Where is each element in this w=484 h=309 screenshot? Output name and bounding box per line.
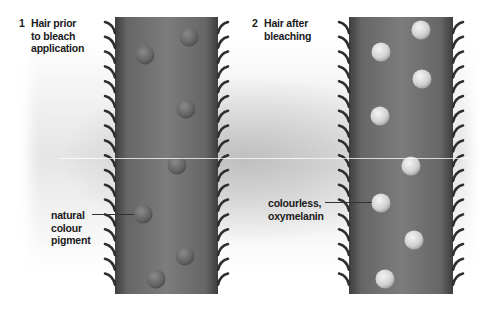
cuticle-scale (453, 274, 463, 285)
panel-2-number: 2 (252, 17, 258, 30)
cuticle-scale (218, 22, 228, 33)
cuticle-scale (453, 66, 463, 77)
cuticle-scale (339, 111, 349, 122)
cuticle-scale (218, 259, 228, 270)
hair-shaft-1 (115, 17, 218, 294)
cuticle-scale (453, 155, 463, 166)
natural-colour-pigment-label: natural colour pigment (51, 209, 90, 247)
cuticle-scale (105, 66, 115, 77)
cuticle-scale (105, 22, 115, 33)
cuticle-scale (218, 96, 228, 107)
annotation-1-line-2: colour (51, 222, 90, 235)
cuticle-scale (453, 111, 463, 122)
cuticle-scale (218, 274, 228, 285)
cuticle-scale (218, 155, 228, 166)
cuticle-scale (339, 259, 349, 270)
cuticle-scale (339, 274, 349, 285)
cuticle-scale (105, 244, 115, 255)
cuticle-scale (105, 126, 115, 137)
cuticle-scale (105, 214, 115, 225)
hair-strand-1 (105, 17, 228, 294)
annotation-1-line-1: natural (51, 209, 90, 222)
cuticle-scale (218, 111, 228, 122)
pigment-granule (177, 100, 196, 119)
pigment-granule (180, 28, 199, 47)
cuticle-scale (453, 229, 463, 240)
panel-1-title-line-1: Hair prior (31, 17, 84, 30)
cuticle-scale (105, 185, 115, 196)
cuticle-scale (105, 96, 115, 107)
pigment-granule (371, 107, 390, 126)
pigment-granule (134, 205, 153, 224)
cuticle-scale (453, 37, 463, 48)
cuticle-scale (453, 214, 463, 225)
cuticle-scale (339, 126, 349, 137)
cuticle-scale (218, 170, 228, 181)
cuticle-scale (339, 81, 349, 92)
panel-2-title-line-2: bleaching (264, 30, 311, 43)
cuticle-scale (453, 185, 463, 196)
annotation-2-line-1: colourless, (268, 197, 324, 210)
cuticle-scale (105, 155, 115, 166)
pigment-granule (136, 46, 155, 65)
panel-2-title: 2 Hair after bleaching (264, 17, 311, 42)
cuticle-scale (339, 96, 349, 107)
cuticle-scale (218, 229, 228, 240)
hair-strand-2 (339, 17, 463, 294)
cuticle-scale (453, 259, 463, 270)
cuticle-scale (105, 200, 115, 211)
cuticle-scale (105, 140, 115, 151)
pigment-granule (376, 270, 395, 289)
cuticle-scale (339, 214, 349, 225)
cuticle-scale (339, 66, 349, 77)
cuticle-scale (339, 155, 349, 166)
cuticle-scale (105, 37, 115, 48)
cuticle-scale (339, 52, 349, 63)
hair-shaft-2 (349, 17, 453, 294)
cuticle-scale (105, 229, 115, 240)
cuticle-scale (218, 66, 228, 77)
panel-1-title-line-2: to bleach (31, 30, 84, 43)
pigment-granule (147, 270, 166, 289)
cuticle-scale (218, 214, 228, 225)
cuticle-scale (218, 244, 228, 255)
panel-1-title: 1 Hair prior to bleach application (31, 17, 84, 55)
annotation-1-line-3: pigment (51, 234, 90, 247)
hair-bleaching-diagram: 1 Hair prior to bleach application 2 Hai… (0, 0, 484, 309)
cuticle-scale (339, 170, 349, 181)
cuticle-scale (453, 126, 463, 137)
cuticle-scale (453, 22, 463, 33)
cuticle-scales-right-1 (218, 22, 228, 285)
cuticle-scale (218, 140, 228, 151)
cuticle-scale (453, 244, 463, 255)
pigment-granule (372, 43, 391, 62)
cuticle-scale (453, 81, 463, 92)
colourless-oxymelanin-label: colourless, oxymelanin (268, 197, 324, 222)
panel-1-number: 1 (19, 17, 25, 30)
cuticle-scale (218, 185, 228, 196)
panel-1-title-line-3: application (31, 42, 84, 55)
cuticle-scale (105, 274, 115, 285)
cuticle-scale (218, 52, 228, 63)
pigment-granule (412, 21, 431, 40)
cuticle-scales-right-2 (453, 22, 463, 285)
annotation-2-line-2: oxymelanin (268, 210, 324, 223)
cuticle-scale (218, 37, 228, 48)
cuticle-scale (339, 140, 349, 151)
pigment-granule (372, 194, 391, 213)
cuticle-scale (105, 52, 115, 63)
cuticle-scales-left-1 (105, 22, 115, 285)
leader-line-2 (325, 202, 372, 203)
pigment-granule (402, 157, 421, 176)
pigment-granule (413, 70, 432, 89)
cuticle-scale (339, 244, 349, 255)
cuticle-scale (453, 52, 463, 63)
cuticle-scales-left-2 (339, 22, 349, 285)
cuticle-scale (105, 111, 115, 122)
cuticle-scale (105, 170, 115, 181)
cuticle-scale (105, 259, 115, 270)
cuticle-scale (218, 126, 228, 137)
panel-2-title-line-1: Hair after (264, 17, 311, 30)
cuticle-scale (453, 200, 463, 211)
section-seam-line (60, 158, 470, 159)
